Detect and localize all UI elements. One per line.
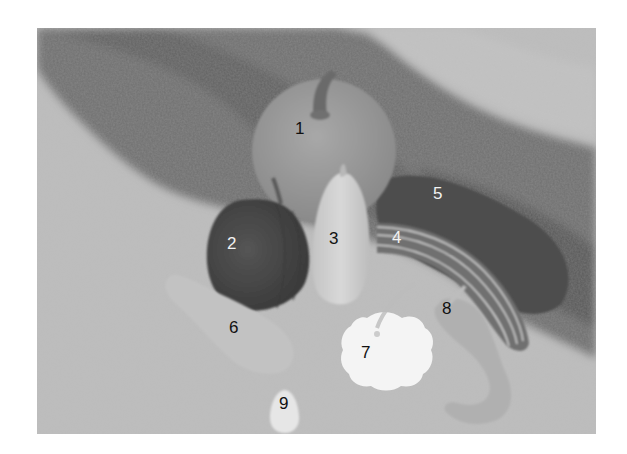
label-8: 8: [442, 299, 451, 318]
label-6: 6: [229, 318, 238, 337]
label-5: 5: [433, 184, 442, 203]
label-7: 7: [361, 343, 370, 362]
label-4: 4: [392, 228, 401, 247]
label-2: 2: [227, 234, 236, 253]
squash-photo: 1 2 3 4 5 6 7 8 9: [37, 28, 596, 434]
label-1: 1: [295, 119, 304, 138]
label-9: 9: [279, 394, 288, 413]
photo-canvas: 1 2 3 4 5 6 7 8 9: [37, 28, 596, 434]
label-3: 3: [329, 229, 338, 248]
